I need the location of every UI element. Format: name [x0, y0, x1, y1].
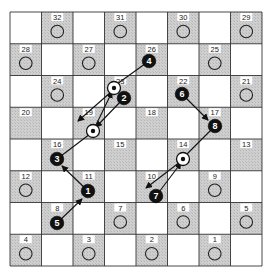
square-18: 18 — [136, 107, 168, 139]
piece-8: 8 — [208, 119, 222, 133]
square-12: 12 — [10, 171, 42, 203]
square-number: 10 — [148, 172, 156, 181]
square-number: 29 — [242, 13, 250, 22]
square-number: 15 — [116, 140, 124, 149]
square-number: 3 — [87, 235, 91, 244]
piece-label: 5 — [54, 218, 59, 228]
square-number: 26 — [148, 45, 156, 54]
piece-label: 2 — [121, 93, 126, 103]
checkerboard-diagram: 3231302928272625242322212019181716151413… — [0, 0, 269, 280]
square-31: 31 — [105, 12, 137, 44]
piece-label: 6 — [179, 89, 184, 99]
square-number: 4 — [24, 235, 28, 244]
square-9: 9 — [199, 171, 231, 203]
square-number: 25 — [211, 45, 219, 54]
piece-label: 4 — [146, 56, 151, 66]
square-number: 5 — [244, 204, 248, 213]
square-3: 3 — [73, 234, 105, 266]
piece-3: 3 — [50, 152, 64, 166]
square-number: 11 — [85, 172, 93, 181]
square-number: 30 — [179, 13, 187, 22]
square-2: 2 — [136, 234, 168, 266]
square-number: 9 — [213, 172, 217, 181]
square-5: 5 — [231, 203, 263, 235]
square-15: 15 — [105, 139, 137, 171]
square-number: 8 — [55, 204, 59, 213]
square-25: 25 — [199, 44, 231, 76]
square-6: 6 — [168, 203, 200, 235]
square-27: 27 — [73, 44, 105, 76]
square-number: 28 — [22, 45, 30, 54]
square-number: 31 — [116, 13, 124, 22]
square-number: 17 — [211, 108, 219, 117]
square-20: 20 — [10, 107, 42, 139]
square-number: 18 — [148, 108, 156, 117]
square-13: 13 — [231, 139, 263, 171]
square-24: 24 — [42, 76, 74, 108]
piece-label: 3 — [54, 154, 59, 164]
square-number: 27 — [85, 45, 93, 54]
square-7: 7 — [105, 203, 137, 235]
square-21: 21 — [231, 76, 263, 108]
square-number: 2 — [150, 235, 154, 244]
piece-7: 7 — [149, 189, 163, 203]
square-4: 4 — [10, 234, 42, 266]
square-32: 32 — [42, 12, 74, 44]
square-number: 16 — [53, 140, 61, 149]
square-number: 7 — [118, 204, 122, 213]
square-30: 30 — [168, 12, 200, 44]
piece-1: 1 — [81, 184, 95, 198]
square-number: 12 — [22, 172, 30, 181]
square-number: 21 — [242, 77, 250, 86]
square-number: 1 — [213, 235, 217, 244]
square-number: 24 — [53, 77, 61, 86]
piece-label: 1 — [85, 186, 90, 196]
square-29: 29 — [231, 12, 263, 44]
piece-label: 7 — [153, 191, 158, 201]
piece-2: 2 — [117, 91, 131, 105]
square-number: 13 — [242, 140, 250, 149]
square-number: 6 — [181, 204, 185, 213]
piece-4: 4 — [142, 54, 156, 68]
piece-6: 6 — [175, 87, 189, 101]
square-number: 20 — [22, 108, 30, 117]
square-number: 22 — [179, 77, 187, 86]
square-28: 28 — [10, 44, 42, 76]
square-1: 1 — [199, 234, 231, 266]
square-number: 14 — [179, 140, 187, 149]
piece-5: 5 — [50, 216, 64, 230]
square-number: 32 — [53, 13, 61, 22]
piece-label: 8 — [212, 121, 217, 131]
